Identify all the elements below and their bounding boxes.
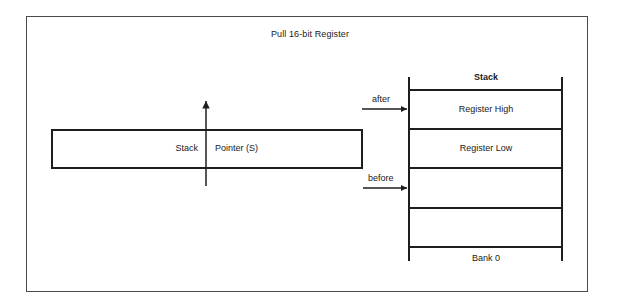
after-label: after	[372, 94, 390, 104]
before-label: before	[368, 173, 394, 183]
stack-title: Stack	[409, 72, 563, 82]
stack-cell-register-high: Register High	[409, 104, 563, 114]
stack-cell-register-low: Register Low	[409, 143, 563, 153]
stack-bank-label: Bank 0	[409, 253, 563, 263]
